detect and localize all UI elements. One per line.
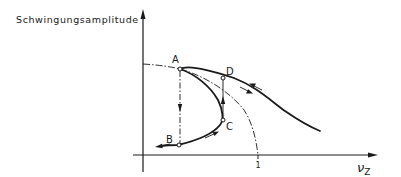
x-tick-label-1: 1: [256, 161, 261, 170]
label-C: C: [226, 121, 233, 132]
label-A: A: [172, 54, 179, 65]
point-B: [177, 143, 181, 147]
y-axis-arrow-icon: [141, 9, 146, 19]
arrow-up-icon: [221, 96, 225, 104]
label-D: D: [226, 66, 234, 77]
x-axis-arrow-icon: [368, 153, 378, 158]
point-A: [178, 67, 182, 71]
arrow-down-right-icon: [246, 89, 253, 93]
axes: [133, 9, 378, 172]
label-B: B: [166, 134, 173, 145]
arrow-right-icon: [213, 132, 220, 137]
point-D: [221, 76, 225, 80]
jump-down-A-B: [178, 71, 182, 143]
backbone-curve: [143, 64, 258, 155]
x-axis-label-subscript: Z: [364, 167, 370, 177]
point-markers: [177, 67, 225, 147]
x-axis-label-nu: ν: [357, 160, 364, 175]
diagram-canvas: A D C B 1 νZ: [0, 0, 401, 177]
point-C: [221, 118, 225, 122]
response-curve: [160, 67, 320, 146]
arrow-left-icon: [155, 144, 163, 148]
x-axis-label: νZ: [357, 160, 370, 177]
arrow-down-icon: [178, 104, 182, 112]
